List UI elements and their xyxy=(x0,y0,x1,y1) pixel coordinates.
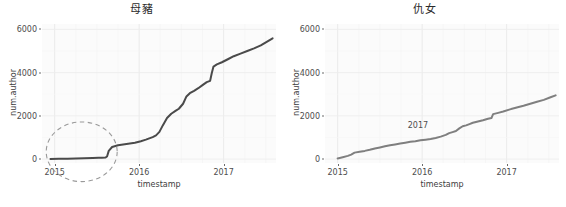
plot-area-right xyxy=(283,0,566,207)
chart-panel-right: 仇女 0200040006000num.author201520162017ti… xyxy=(283,0,566,207)
figure-container: 母豬 0200040006000num.author201520162017ti… xyxy=(0,0,566,207)
plot-area-left xyxy=(0,0,283,207)
panel-background xyxy=(325,24,559,163)
chart-panel-left: 母豬 0200040006000num.author201520162017ti… xyxy=(0,0,283,207)
year-annotation: 2017 xyxy=(408,121,428,130)
panel-background xyxy=(42,24,276,163)
